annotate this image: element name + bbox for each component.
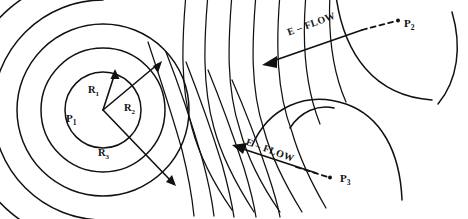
p2-wavefront-outer [336,0,432,100]
p3-wavefront-outer-2 [290,107,334,128]
p2-wavefront-3 [229,0,280,212]
label-source-p2: P2 [404,18,414,32]
wave-interference-diagram: P1 R1 R2 R3 P2 P3 E – FLOW E – FLOW [0,0,468,219]
p3-marker-dot [328,176,332,180]
p3-wavefront-2 [166,52,214,216]
flow-arrow-top-line [270,30,362,62]
p2-marker-dot [396,19,400,23]
label-radius-r2: R2 [124,103,135,116]
flow-arrow-top-head [262,56,277,68]
radius-arrowhead-r1 [111,69,120,79]
p2-wavefront-group [183,0,457,212]
p1-wavefront-5 [0,0,120,219]
label-source-p1: P1 [66,113,76,127]
wavefront-canvas [0,0,468,219]
p1-wavefront-4 [0,0,103,219]
flow-arrow-top-dash [362,21,396,30]
label-source-p3: P3 [340,173,350,187]
p2-wavefront-outer-2 [438,12,457,104]
radius-arrow-group [103,61,176,186]
label-radius-r1: R1 [88,85,99,98]
p1-wavefront-group [0,0,189,219]
label-radius-r3: R3 [98,148,109,161]
